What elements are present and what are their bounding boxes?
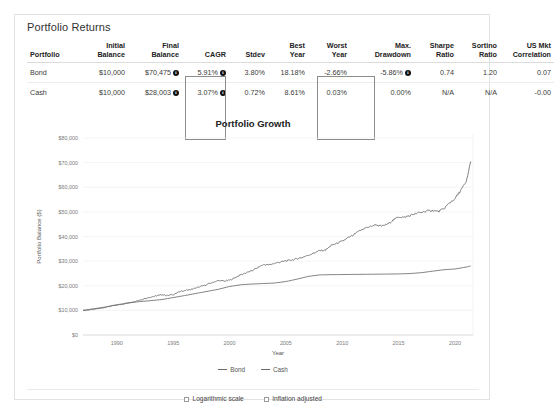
cell-cagr-value: 3.07% bbox=[198, 88, 218, 97]
cell-initial-balance: $10,000 bbox=[79, 83, 128, 103]
x-tick-label: 2010 bbox=[336, 340, 348, 346]
x-tick-label: 2005 bbox=[280, 340, 292, 346]
col-header-best-year-l2: Year bbox=[271, 50, 305, 59]
cell-initial-balance: $10,000 bbox=[79, 63, 128, 83]
col-header-worst-year-l1: Worst bbox=[311, 41, 347, 50]
cell-final-balance: $28,003i bbox=[128, 83, 182, 103]
info-icon[interactable]: i bbox=[173, 90, 179, 96]
y-tick-label: $0 bbox=[72, 332, 78, 338]
cell-us-mkt-correlation: 0.07 bbox=[500, 63, 554, 83]
cell-best-year: 18.18% bbox=[268, 63, 308, 83]
cell-cagr-value: 5.91% bbox=[198, 68, 218, 77]
cell-cagr: 3.07%i bbox=[182, 83, 229, 103]
col-header-initial-balance-l2: Balance bbox=[82, 50, 125, 59]
col-header-sharpe-ratio-l2: Ratio bbox=[417, 50, 454, 59]
cell-final-balance-value: $28,003 bbox=[145, 88, 171, 97]
col-header-worst-year-l2: Year bbox=[311, 50, 347, 59]
col-header-stdev: Stdev bbox=[229, 41, 268, 63]
portfolio-returns-table: Portfolio Initial Balance Final Balance bbox=[27, 41, 554, 102]
chart-legend: Bond Cash bbox=[27, 366, 479, 373]
x-tick-label: 1990 bbox=[111, 340, 123, 346]
y-axis-label: Portfolio Balance ($) bbox=[36, 209, 42, 263]
y-tick-label: $80,000 bbox=[59, 135, 79, 141]
col-header-best-year: Best Year bbox=[268, 41, 308, 63]
x-tick-label: 2000 bbox=[224, 340, 236, 346]
col-header-us-mkt-correlation: US Mkt Correlation bbox=[500, 41, 554, 63]
cell-cagr: 5.91%i bbox=[182, 63, 229, 83]
cell-best-year: 8.61% bbox=[268, 83, 308, 103]
col-header-sortino-ratio: Sortino Ratio bbox=[457, 41, 500, 63]
y-tick-label: $60,000 bbox=[59, 184, 79, 190]
info-icon[interactable]: i bbox=[220, 90, 226, 96]
cell-us-mkt-correlation: -0.00 bbox=[500, 83, 554, 103]
col-header-max-drawdown: Max. Drawdown bbox=[350, 41, 414, 63]
x-axis-label: Year bbox=[272, 350, 284, 356]
col-header-max-drawdown-l1: Max. bbox=[353, 41, 411, 50]
legend-item-bond[interactable]: Bond bbox=[218, 366, 245, 373]
col-header-portfolio: Portfolio bbox=[27, 41, 79, 63]
col-header-final-balance: Final Balance bbox=[128, 41, 182, 63]
series-line-cash bbox=[83, 266, 471, 310]
inflation-adjusted-label: Inflation adjusted bbox=[272, 395, 322, 402]
y-tick-label: $10,000 bbox=[59, 307, 79, 313]
legend-label-cash: Cash bbox=[273, 366, 288, 373]
series-line-bond bbox=[83, 161, 471, 310]
chart-options: Logarithmic scale Inflation adjusted bbox=[27, 389, 479, 402]
option-logarithmic-scale[interactable]: Logarithmic scale bbox=[184, 395, 244, 402]
info-icon[interactable]: i bbox=[173, 70, 179, 76]
legend-label-bond: Bond bbox=[230, 366, 245, 373]
cell-worst-year: 0.03% bbox=[308, 83, 350, 103]
col-header-initial-balance-l1: Initial bbox=[82, 41, 125, 50]
info-icon[interactable]: i bbox=[220, 70, 226, 76]
y-tick-label: $20,000 bbox=[59, 283, 79, 289]
col-header-stdev-l2: Stdev bbox=[232, 50, 265, 59]
logarithmic-scale-checkbox[interactable] bbox=[184, 397, 190, 403]
table-header-row: Portfolio Initial Balance Final Balance bbox=[27, 41, 554, 63]
col-header-sharpe-ratio: Sharpe Ratio bbox=[414, 41, 457, 63]
col-header-final-balance-l1: Final bbox=[131, 41, 179, 50]
cell-portfolio: Cash bbox=[27, 83, 79, 103]
y-tick-label: $50,000 bbox=[59, 209, 79, 215]
cell-max-drawdown: 0.00% bbox=[350, 83, 414, 103]
col-header-sharpe-ratio-l1: Sharpe bbox=[417, 41, 454, 50]
col-header-worst-year: Worst Year bbox=[308, 41, 350, 63]
cell-sharpe-ratio: 0.74 bbox=[414, 63, 457, 83]
col-header-sortino-ratio-l1: Sortino bbox=[460, 41, 497, 50]
legend-line-icon bbox=[261, 369, 270, 370]
y-tick-label: $30,000 bbox=[59, 258, 79, 264]
cell-stdev: 0.72% bbox=[229, 83, 268, 103]
info-icon[interactable]: i bbox=[405, 70, 411, 76]
returns-table-wrapper: Portfolio Initial Balance Final Balance bbox=[27, 41, 479, 102]
portfolio-growth-chart: Portfolio Growth $0$10,000$20,000$30,000… bbox=[27, 118, 479, 390]
table-row: Bond $10,000 $70,475i 5.91%i 3.80% 18.18… bbox=[27, 63, 554, 83]
inflation-adjusted-checkbox[interactable] bbox=[264, 397, 270, 403]
option-inflation-adjusted[interactable]: Inflation adjusted bbox=[264, 395, 322, 402]
y-tick-label: $70,000 bbox=[59, 160, 79, 166]
col-header-cagr-l2: CAGR bbox=[185, 50, 226, 59]
col-header-sortino-ratio-l2: Ratio bbox=[460, 50, 497, 59]
col-header-final-balance-l2: Balance bbox=[131, 50, 179, 59]
cell-sortino-ratio: N/A bbox=[457, 83, 500, 103]
cell-sharpe-ratio: N/A bbox=[414, 83, 457, 103]
col-header-portfolio-l2: Portfolio bbox=[30, 50, 76, 59]
y-tick-label: $40,000 bbox=[59, 234, 79, 240]
col-header-max-drawdown-l2: Drawdown bbox=[353, 50, 411, 59]
logarithmic-scale-label: Logarithmic scale bbox=[192, 395, 243, 402]
col-header-us-mkt-correlation-l2: Correlation bbox=[503, 50, 551, 59]
table-row: Cash $10,000 $28,003i 3.07%i 0.72% 8.61%… bbox=[27, 83, 554, 103]
cell-portfolio: Bond bbox=[27, 63, 79, 83]
chart-plot: $0$10,000$20,000$30,000$40,000$50,000$60… bbox=[27, 132, 479, 367]
cell-max-drawdown: -5.86%i bbox=[350, 63, 414, 83]
x-tick-label: 2015 bbox=[393, 340, 405, 346]
legend-item-cash[interactable]: Cash bbox=[261, 366, 288, 373]
x-tick-label: 2020 bbox=[449, 340, 461, 346]
col-header-cagr: CAGR bbox=[182, 41, 229, 63]
col-header-best-year-l1: Best bbox=[271, 41, 305, 50]
col-header-us-mkt-correlation-l1: US Mkt bbox=[503, 41, 551, 50]
legend-line-icon bbox=[218, 369, 227, 370]
col-header-initial-balance: Initial Balance bbox=[79, 41, 128, 63]
cell-stdev: 3.80% bbox=[229, 63, 268, 83]
cell-max-drawdown-value: -5.86% bbox=[380, 68, 403, 77]
card-title: Portfolio Returns bbox=[27, 21, 111, 33]
